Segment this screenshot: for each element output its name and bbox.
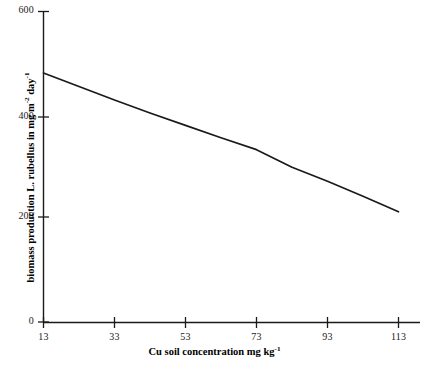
y-axis-title-text-a: biomass production L. rubellus in mg m: [25, 103, 36, 282]
y-tick-label-600: 600: [0, 4, 34, 15]
x-tick-label-93: 93: [307, 331, 348, 342]
plot-area: [0, 0, 429, 366]
data-series-line: [44, 73, 399, 212]
x-axis-title-exponent: -1: [275, 345, 281, 353]
x-tick-label-13: 13: [23, 331, 64, 342]
x-tick-label-113: 113: [378, 331, 419, 342]
x-tick-label-33: 33: [94, 331, 135, 342]
y-axis-title-exponent-a: -2: [23, 97, 31, 103]
x-tick-label-53: 53: [165, 331, 206, 342]
y-axis-title: biomass production L. rubellus in mg m-2…: [25, 28, 36, 328]
x-axis-title: Cu soil concentration mg kg-1: [0, 346, 429, 357]
y-axis-title-exponent-b: -1: [23, 72, 31, 78]
chart-figure: 600 400 200 0 13 33 53 73 93 113 Cu soil…: [0, 0, 429, 366]
x-tick-label-73: 73: [236, 331, 277, 342]
x-axis-title-text: Cu soil concentration mg kg: [149, 346, 275, 357]
y-axis-title-text-b: day: [25, 78, 36, 97]
